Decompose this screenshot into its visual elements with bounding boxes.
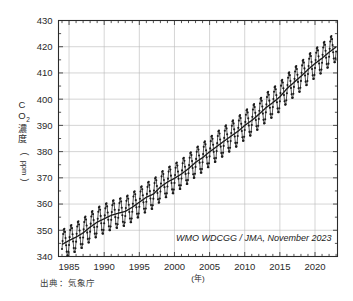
y-tick-label: 370 <box>37 172 53 183</box>
data-point-marker <box>281 79 283 81</box>
data-point-marker <box>226 127 228 129</box>
data-point-marker <box>169 165 171 167</box>
data-point-marker <box>204 143 206 145</box>
data-point-marker <box>271 117 273 119</box>
data-point-marker <box>166 192 168 194</box>
data-point-marker <box>315 52 317 54</box>
data-point-marker <box>318 62 320 64</box>
data-point-marker <box>137 216 139 218</box>
data-point-marker <box>113 202 115 204</box>
data-point-marker <box>237 135 239 137</box>
data-point-marker <box>176 161 178 163</box>
data-point-marker <box>69 229 71 231</box>
data-point-marker <box>167 178 169 180</box>
data-point-marker <box>280 85 282 87</box>
data-point-marker <box>135 206 137 208</box>
y-tick-label: 410 <box>37 67 53 78</box>
data-point-marker <box>317 55 319 57</box>
data-point-marker <box>99 209 101 211</box>
data-point-marker <box>76 233 78 235</box>
data-point-marker <box>260 97 262 99</box>
data-point-marker <box>324 44 326 46</box>
data-point-marker <box>142 194 144 196</box>
data-point-marker <box>216 150 218 152</box>
data-point-marker <box>216 142 218 144</box>
data-point-marker <box>211 135 213 137</box>
data-point-marker <box>292 97 294 99</box>
data-point-marker <box>259 102 261 104</box>
x-tick-label: 1995 <box>129 261 150 272</box>
y-axis-label-glyph: ( <box>20 153 30 156</box>
data-point-marker <box>301 64 303 66</box>
data-point-marker <box>134 190 136 192</box>
data-point-marker <box>236 142 238 144</box>
data-point-marker <box>131 217 133 219</box>
data-point-marker <box>124 221 126 223</box>
data-point-marker <box>297 81 299 83</box>
data-point-marker <box>209 155 211 157</box>
data-point-marker <box>229 147 231 149</box>
data-point-marker <box>131 211 133 213</box>
data-point-marker <box>75 241 77 243</box>
data-point-marker <box>219 132 221 134</box>
data-point-marker <box>267 91 269 93</box>
data-point-marker <box>266 96 268 98</box>
data-point-marker <box>240 117 242 119</box>
data-point-marker <box>334 57 336 59</box>
data-point-marker <box>105 202 107 204</box>
data-point-marker <box>276 101 278 103</box>
data-point-marker <box>155 179 157 181</box>
y-axis-label-glyph: 度 <box>18 133 27 144</box>
data-point-marker <box>335 50 337 52</box>
data-point-marker <box>317 49 319 51</box>
data-point-marker <box>63 228 65 230</box>
data-point-marker <box>194 166 196 168</box>
data-point-marker <box>180 184 182 186</box>
data-point-marker <box>228 151 230 153</box>
chart-canvas: 3403503603703803904004104204301985199019… <box>0 0 353 301</box>
data-point-marker <box>103 229 105 231</box>
y-tick-label: 430 <box>37 15 53 26</box>
data-point-marker <box>162 173 164 175</box>
data-point-marker <box>124 215 126 217</box>
data-point-marker <box>313 74 315 76</box>
y-axis-label-glyph: C <box>19 99 26 110</box>
data-point-marker <box>241 130 243 132</box>
data-point-marker <box>252 109 254 111</box>
data-point-marker <box>111 211 113 213</box>
data-point-marker <box>186 183 188 185</box>
monthly-mean-line <box>62 36 336 255</box>
data-point-marker <box>327 67 329 69</box>
data-point-marker <box>159 191 161 193</box>
data-point-marker <box>278 111 280 113</box>
data-point-marker <box>188 164 190 166</box>
data-point-marker <box>121 214 123 216</box>
data-point-marker <box>170 182 172 184</box>
data-point-marker <box>82 236 84 238</box>
data-point-marker <box>329 48 331 50</box>
data-point-marker <box>207 166 209 168</box>
data-point-marker <box>289 74 291 76</box>
data-point-marker <box>293 78 295 80</box>
data-point-marker <box>77 220 79 222</box>
data-point-marker <box>156 185 158 187</box>
data-point-marker <box>166 186 168 188</box>
data-point-marker <box>168 171 170 173</box>
data-point-marker <box>334 61 336 63</box>
data-point-marker <box>202 161 204 163</box>
data-point-marker <box>274 85 276 87</box>
data-point-marker <box>194 173 196 175</box>
data-point-marker <box>241 136 243 138</box>
data-point-marker <box>150 204 152 206</box>
data-point-marker <box>61 248 63 250</box>
data-point-marker <box>253 103 255 105</box>
data-point-marker <box>268 100 270 102</box>
data-point-marker <box>240 123 242 125</box>
data-point-marker <box>294 71 296 73</box>
data-point-marker <box>90 215 92 217</box>
data-point-marker <box>104 214 106 216</box>
data-point-marker <box>295 65 297 67</box>
data-point-marker <box>220 146 222 148</box>
data-point-marker <box>243 140 245 142</box>
y-tick-label: 400 <box>37 94 53 105</box>
